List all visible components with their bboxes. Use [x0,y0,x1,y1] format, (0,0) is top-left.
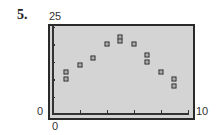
y-max-label: 25 [49,10,61,22]
data-point-marker [131,42,136,47]
data-point-marker [77,63,82,68]
data-point-marker [172,77,177,82]
x-axis [52,113,189,115]
y-tick [52,79,55,81]
data-point-marker [158,70,163,75]
y-min-label: 0 [37,105,43,117]
x-max-label: 10 [196,105,208,117]
data-point-marker [118,38,123,43]
x-min-label: 0 [52,120,58,132]
x-tick [161,110,163,113]
data-point-marker [64,70,69,75]
x-tick [188,110,190,113]
data-point-marker [172,84,177,89]
x-tick [107,110,109,113]
data-point-marker [145,59,150,64]
y-tick [52,62,55,64]
data-point-marker [145,52,150,57]
data-point-marker [91,56,96,61]
y-tick [52,44,55,46]
x-tick [80,110,82,113]
y-axis [52,26,54,114]
x-tick [134,110,136,113]
problem-number: 5. [17,7,28,23]
data-point-marker [104,42,109,47]
y-tick [52,27,55,29]
y-tick [52,97,55,99]
data-point-marker [64,77,69,82]
